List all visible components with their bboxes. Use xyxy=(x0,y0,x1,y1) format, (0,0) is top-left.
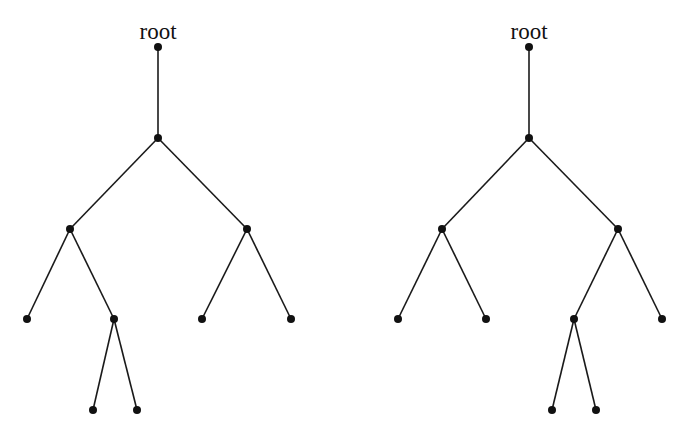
tree-edge xyxy=(552,319,574,410)
right-tree-root-label: root xyxy=(510,19,548,44)
tree-edge xyxy=(93,319,114,410)
tree-edge xyxy=(247,229,291,319)
tree-node xyxy=(66,225,74,233)
tree-node xyxy=(198,315,206,323)
left-tree: root xyxy=(23,19,295,414)
tree-edge xyxy=(70,229,114,319)
tree-edge xyxy=(529,138,618,229)
tree-edge xyxy=(442,138,529,229)
tree-node xyxy=(658,315,666,323)
tree-node xyxy=(133,406,141,414)
right-tree: root xyxy=(394,19,666,414)
tree-edge xyxy=(114,319,137,410)
tree-node xyxy=(287,315,295,323)
tree-node xyxy=(243,225,251,233)
tree-edge xyxy=(574,229,618,319)
tree-node xyxy=(548,406,556,414)
left-tree-root-label: root xyxy=(139,19,177,44)
tree-node xyxy=(614,225,622,233)
tree-node xyxy=(570,315,578,323)
tree-edge xyxy=(618,229,662,319)
tree-node xyxy=(525,43,533,51)
tree-edge xyxy=(70,138,158,229)
tree-edge xyxy=(442,229,486,319)
tree-node xyxy=(438,225,446,233)
tree-node xyxy=(592,406,600,414)
tree-node xyxy=(482,315,490,323)
tree-edge xyxy=(574,319,596,410)
tree-node xyxy=(154,134,162,142)
tree-edge xyxy=(398,229,442,319)
tree-edge xyxy=(202,229,247,319)
left-tree-nodes xyxy=(23,43,295,414)
tree-edge xyxy=(158,138,247,229)
tree-node xyxy=(154,43,162,51)
tree-edge xyxy=(27,229,70,319)
tree-node xyxy=(394,315,402,323)
tree-node xyxy=(525,134,533,142)
right-tree-nodes xyxy=(394,43,666,414)
right-tree-edges xyxy=(398,47,662,410)
tree-node xyxy=(23,315,31,323)
tree-node xyxy=(110,315,118,323)
tree-node xyxy=(89,406,97,414)
tree-diagram-canvas: root root xyxy=(0,0,690,434)
